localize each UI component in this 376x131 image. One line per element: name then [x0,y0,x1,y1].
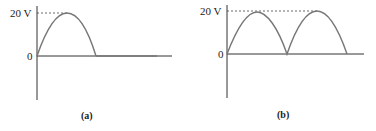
panel-a-zero-label: 0 [27,50,33,62]
panel-a-peak-label: 20 V [10,7,32,19]
panel-a: 20 V 0 (a) [10,6,172,122]
panel-b-zero-label: 0 [218,48,224,60]
panel-b-full-wave-curve [227,11,347,54]
panel-b: 20 V 0 (b) [200,5,364,121]
rectifier-waveforms-figure: 20 V 0 (a) 20 V 0 (b) [0,0,376,131]
panel-a-caption: (a) [81,110,93,122]
panel-b-caption: (b) [277,109,289,121]
panel-a-half-wave-curve [37,13,96,56]
panel-b-peak-label: 20 V [200,5,222,17]
